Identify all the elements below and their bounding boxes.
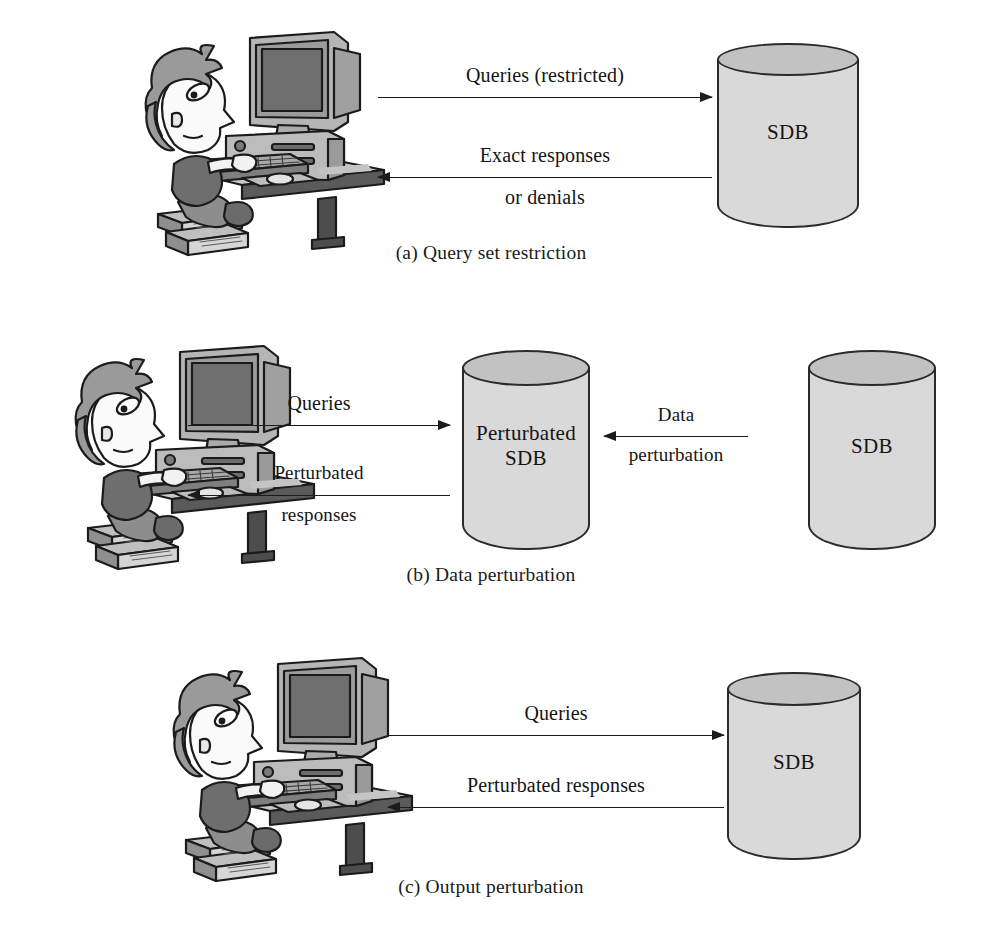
- database-label-line1: Perturbated: [476, 421, 576, 445]
- arrow-queries-c: [388, 730, 724, 741]
- arrow-perturbated-responses-b: [188, 490, 450, 501]
- arrow-head-left-icon: [603, 431, 616, 441]
- label-exact-responses: Exact responses: [378, 144, 712, 167]
- user-at-computer-illustration-a: [122, 18, 387, 263]
- arrow-data-perturbation: [604, 431, 748, 442]
- arrow-queries-restricted: [378, 92, 712, 103]
- arrow-shaft: [388, 807, 724, 808]
- arrow-shaft: [188, 495, 450, 496]
- arrow-perturbated-responses-c: [388, 802, 724, 813]
- caption-panel-c: (c) Output perturbation: [0, 876, 982, 898]
- arrow-head-left-icon: [377, 172, 390, 182]
- user-at-computer-illustration-b: [52, 332, 317, 577]
- cylinder-top-ellipse: [717, 43, 859, 76]
- user-at-computer-illustration-c: [150, 644, 415, 889]
- arrow-head-left-icon: [387, 802, 400, 812]
- label-perturbated-responses-c: Perturbated responses: [388, 774, 724, 797]
- computer-user-svg: [122, 18, 387, 263]
- computer-user-svg: [52, 332, 317, 577]
- arrow-shaft: [188, 425, 450, 426]
- database-label: SDB: [717, 119, 859, 144]
- label-or-denials: or denials: [378, 186, 712, 209]
- label-queries-b: Queries: [188, 392, 450, 415]
- arrow-shaft: [388, 735, 724, 736]
- label-data: Data: [604, 404, 748, 426]
- arrow-shaft: [378, 177, 712, 178]
- caption-panel-b: (b) Data perturbation: [0, 564, 982, 586]
- arrow-head-left-icon: [187, 490, 200, 500]
- database-label: SDB: [808, 434, 936, 459]
- cylinder-top-ellipse: [462, 350, 590, 386]
- cylinder-top-ellipse: [727, 672, 861, 706]
- cylinder-top-ellipse: [808, 350, 936, 386]
- cylinder-body: [808, 368, 936, 550]
- arrow-shaft: [604, 436, 748, 437]
- database-sdb-a: SDB: [717, 43, 859, 228]
- database-label: Perturbated SDB: [462, 421, 590, 471]
- caption-panel-a: (a) Query set restriction: [0, 242, 982, 264]
- computer-user-svg: [150, 644, 415, 889]
- arrow-exact-responses: [378, 172, 712, 183]
- arrow-queries-b: [188, 420, 450, 431]
- panel-data-perturbation: Queries Perturbated responses Perturbate…: [0, 318, 982, 598]
- label-perturbation: perturbation: [584, 444, 768, 466]
- panel-output-perturbation: Queries Perturbated responses SDB (c) Ou…: [0, 630, 982, 925]
- panel-query-set-restriction: Queries (restricted) Exact responses or …: [0, 0, 982, 290]
- database-perturbated-sdb: Perturbated SDB: [462, 350, 590, 550]
- arrow-head-right-icon: [438, 420, 451, 430]
- arrow-head-right-icon: [700, 92, 713, 102]
- arrow-head-right-icon: [712, 730, 725, 740]
- database-sdb-c: SDB: [727, 672, 861, 860]
- database-label: SDB: [727, 750, 861, 775]
- label-queries-c: Queries: [388, 702, 724, 725]
- arrow-shaft: [378, 97, 712, 98]
- label-queries-restricted: Queries (restricted): [378, 64, 712, 87]
- label-perturbated-b: Perturbated: [188, 462, 450, 484]
- database-label-line2: SDB: [505, 446, 547, 470]
- label-responses-b: responses: [188, 504, 450, 526]
- database-sdb-b: SDB: [808, 350, 936, 550]
